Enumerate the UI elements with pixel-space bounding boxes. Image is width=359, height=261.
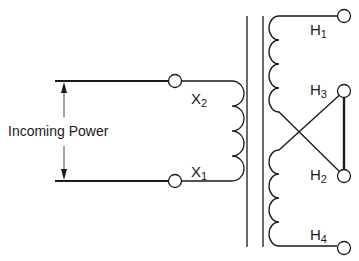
transformer-diagram: Incoming Power X2 X1 H1 H3 H2 H4 xyxy=(0,0,359,261)
label-x2: X2 xyxy=(191,90,207,109)
primary-coil-upper xyxy=(269,16,344,176)
terminal-x1 xyxy=(169,175,182,188)
terminal-h1 xyxy=(338,10,351,23)
label-h3: H3 xyxy=(310,81,327,100)
transformer-core xyxy=(247,16,263,247)
primary-coil-lower xyxy=(269,91,344,246)
label-h4: H4 xyxy=(310,226,327,245)
incoming-power-label: Incoming Power xyxy=(8,123,109,139)
terminal-h3 xyxy=(338,85,351,98)
label-h1: H1 xyxy=(310,21,327,40)
terminal-h4 xyxy=(338,242,351,255)
label-x1: X1 xyxy=(191,163,207,182)
terminal-x2 xyxy=(169,75,182,88)
terminal-h2 xyxy=(338,170,351,183)
label-h2: H2 xyxy=(310,166,327,185)
